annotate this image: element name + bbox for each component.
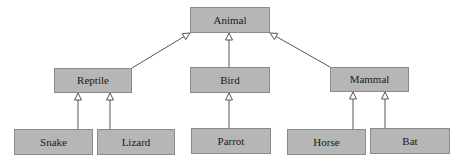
class-diagram: Animal Reptile Bird Mammal Snake Lizard … [0, 0, 458, 165]
hollow-arrowhead-icon [350, 92, 357, 99]
node-label: Mammal [350, 74, 390, 85]
node-label: Animal [214, 15, 247, 26]
hollow-arrowhead-icon [270, 33, 278, 39]
node-label: Reptile [77, 75, 109, 86]
node-label: Horse [313, 137, 339, 148]
hollow-arrowhead-icon [226, 33, 233, 40]
hollow-arrowhead-icon [382, 92, 389, 99]
hollow-arrowhead-icon [182, 33, 190, 40]
node-bat: Bat [370, 128, 450, 154]
hollow-arrowhead-icon [226, 93, 233, 100]
node-label: Lizard [122, 137, 151, 148]
node-label: Bat [402, 136, 417, 147]
node-label: Snake [40, 137, 67, 148]
node-label: Bird [220, 75, 240, 86]
node-parrot: Parrot [191, 128, 271, 154]
node-horse: Horse [287, 129, 366, 155]
hollow-arrowhead-icon [107, 93, 114, 100]
node-reptile: Reptile [54, 68, 132, 93]
edge-mammal-to-animal [276, 36, 330, 67]
node-animal: Animal [190, 7, 270, 33]
node-label: Parrot [218, 136, 245, 147]
node-mammal: Mammal [330, 67, 409, 92]
hollow-arrowhead-icon [75, 93, 82, 100]
node-bird: Bird [190, 67, 270, 93]
edge-reptile-to-animal [132, 37, 184, 68]
node-snake: Snake [14, 129, 93, 155]
node-lizard: Lizard [97, 129, 175, 155]
